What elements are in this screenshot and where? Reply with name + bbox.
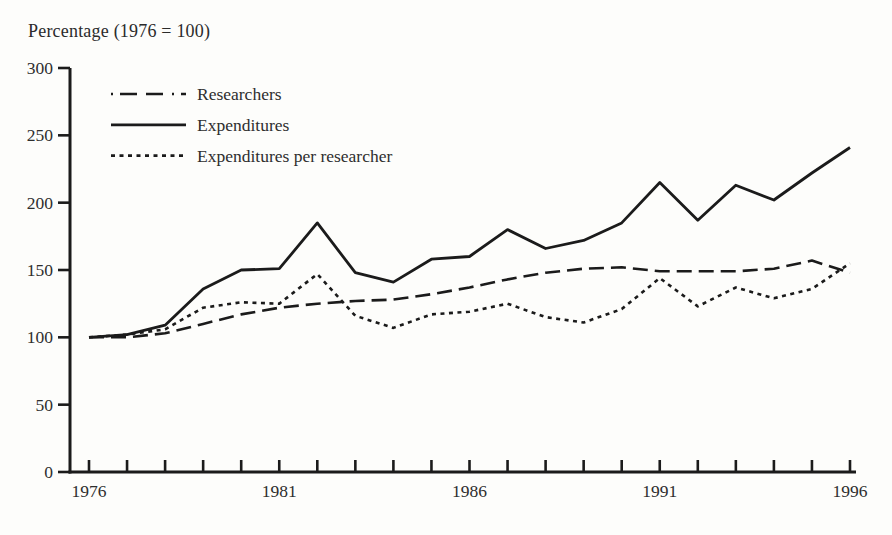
series-line-expenditures-per-researcher [89,263,850,337]
y-axis-tick-label: 150 [27,260,54,280]
chart-svg: 05010015020025030019761981198619911996Re… [0,0,892,535]
y-axis-tick-label: 100 [27,327,54,347]
x-axis-tick-label: 1976 [72,481,107,501]
x-axis-tick-label: 1991 [642,481,677,501]
x-axis-tick-label: 1986 [452,481,487,501]
legend-label: Expenditures per researcher [197,146,392,166]
y-axis-tick-label: 50 [36,395,54,415]
x-axis-tick-label: 1996 [833,481,868,501]
series-line-researchers [89,261,850,338]
x-axis-tick-label: 1981 [262,481,297,501]
y-axis-tick-label: 250 [27,125,54,145]
legend-label: Researchers [197,84,282,104]
line-chart-figure: Percentage (1976 = 100) 0501001502002503… [0,0,892,535]
y-axis-tick-label: 300 [27,58,54,78]
y-axis-tick-label: 200 [27,193,54,213]
y-axis-tick-label: 0 [44,462,53,482]
legend-label: Expenditures [197,115,290,135]
